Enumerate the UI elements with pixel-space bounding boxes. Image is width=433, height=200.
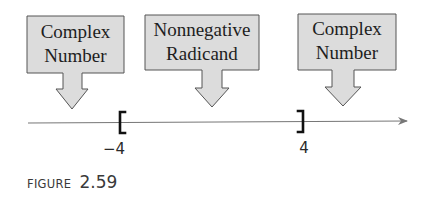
figure-caption: FIGURE 2.59 xyxy=(27,172,117,192)
callout-line2: Number xyxy=(316,42,379,63)
figure-caption-text: FIGURE 2.59 xyxy=(27,172,117,192)
number-line-axis xyxy=(28,121,407,123)
tick-label-neg4: −4 xyxy=(103,140,125,158)
caption-number: 2.59 xyxy=(79,172,117,192)
number-line-diagram: Complex Number Nonnegative Radicand Comp… xyxy=(0,0,433,200)
callout-line2: Radicand xyxy=(166,43,238,64)
callout-line1: Nonnegative xyxy=(153,19,250,40)
callout-line1: Complex xyxy=(312,18,382,39)
callout-line1: Complex xyxy=(41,21,111,42)
callout-nonnegative-radicand: Nonnegative Radicand xyxy=(145,15,259,107)
tick-label-4: 4 xyxy=(299,139,309,157)
number-line: −4 4 xyxy=(28,111,407,158)
caption-prefix: FIGURE xyxy=(27,177,71,191)
callout-line2: Number xyxy=(44,45,107,66)
callout-complex-number-right: Complex Number xyxy=(298,14,396,106)
callout-complex-number-left: Complex Number xyxy=(27,16,124,109)
